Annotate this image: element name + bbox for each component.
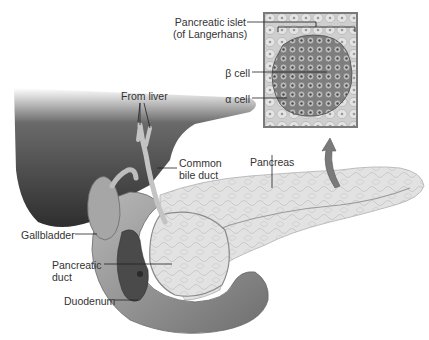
label-pancreatic-islet: Pancreatic islet (of Langerhans) xyxy=(173,16,246,40)
label-pancreatic-duct-line2: duct xyxy=(52,271,102,283)
label-common-bile-duct: Common bile duct xyxy=(179,157,222,181)
label-common-bile-duct-line1: Common xyxy=(179,157,222,169)
label-islet-line1: Pancreatic islet xyxy=(173,16,246,28)
pancreas-head xyxy=(150,212,230,296)
label-alpha-cell: α cell xyxy=(213,93,250,105)
label-beta-cell: β cell xyxy=(213,67,250,79)
label-pancreatic-duct-line1: Pancreatic xyxy=(52,259,102,271)
label-pancreatic-duct: Pancreatic duct xyxy=(52,259,102,283)
label-from-liver: From liver xyxy=(121,90,168,102)
label-duodenum: Duodenum xyxy=(64,295,115,307)
label-common-bile-duct-line2: bile duct xyxy=(179,169,222,181)
islet-cluster xyxy=(272,35,352,116)
label-islet-line2: (of Langerhans) xyxy=(173,28,246,40)
label-pancreas: Pancreas xyxy=(250,156,294,168)
pancreas-diagram: Pancreatic islet (of Langerhans) β cell … xyxy=(0,0,429,340)
label-gallbladder: Gallbladder xyxy=(21,229,75,241)
